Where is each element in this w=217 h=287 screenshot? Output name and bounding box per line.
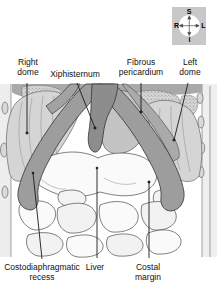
compass-letter-inferior: I bbox=[186, 36, 194, 43]
label-fibrous-pericardium: Fibrous pericardium bbox=[112, 57, 170, 77]
label-liver: Liver bbox=[80, 262, 110, 272]
compass-letter-left: L bbox=[200, 22, 208, 29]
label-costal-margin: Costal margin bbox=[126, 262, 170, 282]
label-xiphisternum: Xiphisternum bbox=[43, 69, 107, 79]
anatomy-figure: S R L I Right dome Xiphisternum Fibrous … bbox=[0, 0, 217, 287]
compass-letter-right: R bbox=[173, 22, 181, 29]
label-costodiaphragmatic-recess: Costodiaphragmatic recess bbox=[0, 262, 84, 282]
compass-letter-superior: S bbox=[185, 8, 193, 15]
label-left-dome: Left dome bbox=[172, 57, 208, 77]
label-right-dome: Right dome bbox=[8, 57, 48, 77]
